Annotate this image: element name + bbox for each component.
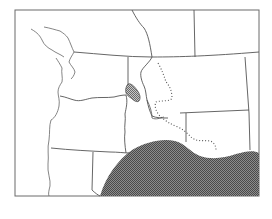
small-hatched-area [126, 84, 140, 102]
coastline [31, 27, 75, 196]
ca-nv-border [92, 152, 100, 196]
wa-or-border [60, 95, 126, 101]
or-ca-border [51, 148, 130, 153]
or-id-border [125, 95, 127, 153]
mt-dakota-border [245, 57, 250, 150]
mt-nd-border [194, 10, 195, 57]
canada-border [74, 52, 259, 57]
large-shaded-area [100, 140, 259, 196]
map-canvas [0, 0, 272, 219]
wy-north-border [180, 110, 249, 113]
